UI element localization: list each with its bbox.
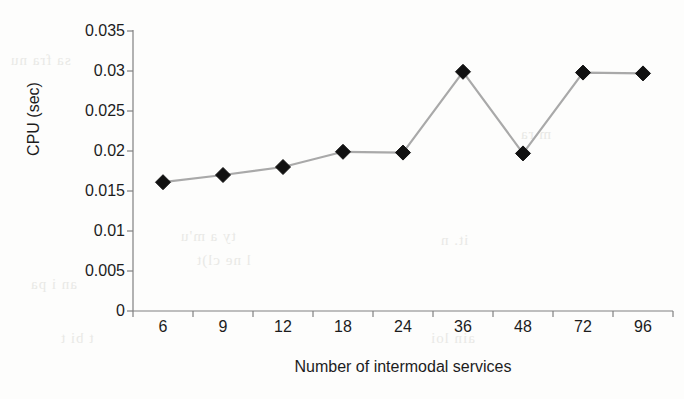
data-point-marker-12 (276, 160, 291, 175)
data-point-marker-9 (216, 168, 231, 183)
data-point-marker-96 (636, 66, 651, 81)
chart-figure: sa fra nu ty a m'u l ne cl)t an i pa it.… (0, 0, 684, 399)
plot-area (0, 0, 684, 399)
data-point-marker-18 (336, 144, 351, 159)
data-point-marker-6 (156, 175, 171, 190)
data-series-line (163, 72, 643, 182)
